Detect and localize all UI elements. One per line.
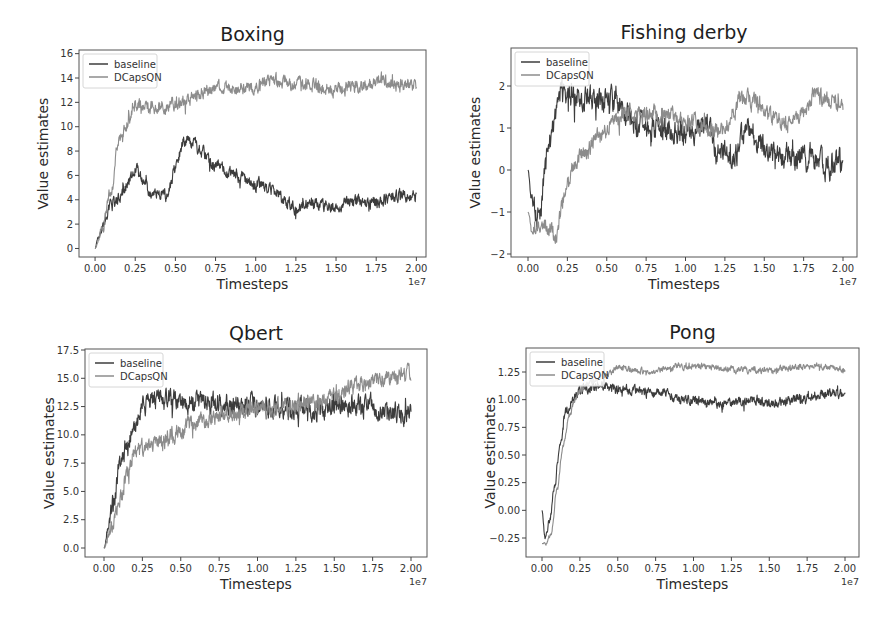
x-tick-label: 0.00	[84, 263, 106, 274]
legend: baselineDCapsQN	[515, 52, 594, 86]
series-line-baseline	[528, 79, 843, 227]
legend-label: DCapsQN	[120, 371, 168, 382]
x-tick-label: 0.25	[569, 563, 591, 574]
y-tick-label: 0.00	[498, 505, 520, 516]
x-tick-label: 0.75	[204, 263, 226, 274]
x-axis-label: Timesteps	[219, 576, 292, 592]
y-tick-label: 1	[499, 123, 505, 134]
legend-label: DCapsQN	[546, 70, 594, 81]
legend-label: baseline	[546, 57, 588, 68]
x-tick-label: 1.25	[720, 563, 742, 574]
x-axis-label: Timesteps	[647, 276, 720, 292]
y-tick-label: 0	[499, 165, 505, 176]
x-offset-label: 1e7	[839, 276, 857, 287]
y-axis-label: Value estimates	[467, 97, 483, 209]
y-tick-label: 0.75	[498, 422, 520, 433]
x-tick-label: 1.00	[246, 563, 268, 574]
y-tick-label: 2.5	[63, 514, 79, 525]
x-tick-label: 0.50	[607, 563, 629, 574]
y-tick-label: 0.50	[498, 450, 520, 461]
y-tick-label: 8	[67, 146, 73, 157]
x-tick-label: 1.50	[325, 263, 347, 274]
x-tick-label: 0.00	[517, 263, 539, 274]
y-tick-label: 15.0	[57, 373, 79, 384]
x-tick-label: 0.50	[170, 563, 192, 574]
panel-title: Qbert	[229, 322, 283, 344]
legend-label: DCapsQN	[114, 72, 162, 83]
x-tick-label: 0.50	[596, 263, 618, 274]
panel-title: Fishing derby	[620, 21, 747, 43]
x-tick-label: 1.75	[796, 563, 818, 574]
series-line-baseline	[542, 379, 845, 539]
figure: Boxing Timesteps Value estimates 1e7 0.0…	[0, 0, 895, 621]
x-tick-label: 1.25	[714, 263, 736, 274]
y-tick-label: 6	[67, 170, 73, 181]
x-tick-label: 1.50	[753, 263, 775, 274]
y-tick-label: 16	[60, 48, 73, 59]
x-tick-label: 2.00	[400, 563, 422, 574]
y-tick-label: 10.0	[57, 429, 79, 440]
y-tick-label: 17.5	[57, 345, 79, 356]
x-axis-label: Timesteps	[216, 276, 289, 292]
y-tick-label: 10	[60, 121, 73, 132]
x-tick-label: 1.25	[285, 563, 307, 574]
panel-title: Pong	[669, 321, 716, 343]
x-tick-label: 0.75	[635, 263, 657, 274]
x-tick-label: 0.25	[131, 563, 153, 574]
series-line-dcapsqn	[104, 363, 411, 548]
x-offset-label: 1e7	[408, 276, 426, 287]
y-tick-label: 0.25	[498, 477, 520, 488]
y-tick-label: 7.5	[63, 458, 79, 469]
x-tick-label: 1.00	[245, 263, 267, 274]
y-axis-label: Value estimates	[41, 397, 57, 509]
y-tick-label: 4	[67, 194, 73, 205]
x-tick-label: 0.25	[556, 263, 578, 274]
x-axis-label: Timesteps	[656, 576, 729, 592]
y-tick-label: 5.0	[63, 486, 79, 497]
y-tick-label: 2	[67, 219, 73, 230]
y-axis-label: Value estimates	[482, 397, 498, 509]
panel-fishing-derby: Fishing derby Timesteps Value estimates …	[467, 21, 857, 292]
x-tick-label: 0.00	[531, 563, 553, 574]
x-tick-label: 0.25	[124, 263, 146, 274]
x-tick-label: 0.75	[644, 563, 666, 574]
y-tick-label: 2	[499, 81, 505, 92]
y-tick-label: −2	[490, 249, 505, 260]
y-tick-label: −1	[490, 207, 505, 218]
x-offset-label: 1e7	[409, 576, 427, 587]
series-line-baseline	[95, 136, 416, 248]
x-tick-label: 1.75	[365, 263, 387, 274]
x-tick-label: 2.00	[834, 563, 856, 574]
legend-label: baseline	[120, 358, 162, 369]
panel-title: Boxing	[220, 23, 285, 45]
x-tick-label: 1.00	[682, 563, 704, 574]
series-line-dcapsqn	[95, 72, 416, 249]
legend-label: baseline	[114, 59, 156, 70]
legend: baselineDCapsQN	[89, 353, 168, 387]
x-offset-label: 1e7	[841, 576, 859, 587]
legend: baselineDCapsQN	[83, 54, 162, 88]
legend-label: baseline	[561, 357, 603, 368]
panel-pong: Pong Timesteps Value estimates 1e7 0.000…	[482, 321, 859, 592]
legend-label: DCapsQN	[561, 370, 609, 381]
x-tick-label: 1.75	[361, 563, 383, 574]
y-tick-label: 0.0	[63, 543, 79, 554]
y-tick-label: −0.25	[489, 533, 520, 544]
y-tick-label: 14	[60, 73, 73, 84]
x-tick-label: 0.50	[164, 263, 186, 274]
x-tick-label: 2.00	[832, 263, 854, 274]
x-tick-label: 2.00	[405, 263, 427, 274]
x-tick-label: 0.75	[208, 563, 230, 574]
x-tick-label: 1.75	[792, 263, 814, 274]
panel-boxing: Boxing Timesteps Value estimates 1e7 0.0…	[35, 23, 427, 292]
x-tick-label: 1.50	[323, 563, 345, 574]
y-axis-label: Value estimates	[35, 98, 51, 210]
y-tick-label: 1.25	[498, 367, 520, 378]
x-tick-label: 0.00	[93, 563, 115, 574]
legend: baselineDCapsQN	[530, 352, 609, 386]
figure-canvas: Boxing Timesteps Value estimates 1e7 0.0…	[0, 0, 895, 621]
y-tick-label: 0	[67, 243, 73, 254]
y-tick-label: 12	[60, 97, 73, 108]
x-tick-label: 1.00	[674, 263, 696, 274]
x-tick-label: 1.50	[758, 563, 780, 574]
